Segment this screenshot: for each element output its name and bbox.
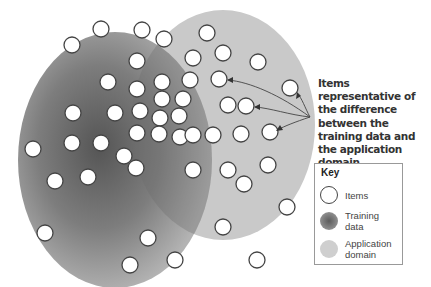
item-circle (233, 126, 249, 142)
item-circle (65, 105, 81, 121)
item-circle (140, 230, 156, 246)
item-circle (116, 148, 132, 164)
item-circle (156, 31, 172, 47)
item-circle (64, 135, 80, 151)
item-circle (80, 169, 96, 185)
item-circle (220, 97, 236, 113)
legend-title: Key (321, 167, 339, 178)
item-circle (93, 21, 109, 37)
item-circle (236, 176, 252, 192)
legend-entry-items: Items (320, 186, 368, 204)
item-circle (185, 127, 201, 143)
item-circle (175, 91, 191, 107)
item-circle (25, 141, 41, 157)
item-circle (93, 135, 109, 151)
item-circle (238, 98, 254, 114)
legend-entry-training: Training data (320, 210, 390, 232)
item-circle (100, 74, 116, 90)
callout-label: Items representative of the difference b… (318, 77, 431, 169)
legend: Key Items Training data Application doma… (314, 163, 403, 265)
item-circle (260, 157, 276, 173)
item-circle (185, 162, 201, 178)
item-circle (37, 225, 53, 241)
item-circle (128, 160, 144, 176)
legend-label-training: Training data (345, 210, 390, 232)
item-circle (282, 80, 298, 96)
item-circle (205, 127, 221, 143)
item-circle (154, 74, 170, 90)
item-circle (132, 103, 148, 119)
item-circle (129, 81, 145, 97)
item-circle (134, 22, 150, 38)
item-circle (220, 162, 236, 178)
item-circle (122, 257, 138, 273)
item-circle (250, 54, 266, 70)
item-circle (199, 25, 215, 41)
item-circle (215, 45, 231, 61)
item-circle (151, 126, 167, 142)
item-circle (249, 252, 265, 268)
item-circle (279, 199, 295, 215)
item-circle (129, 125, 145, 141)
item-circle (215, 219, 231, 235)
legend-label-items: Items (345, 190, 368, 201)
application-domain-swatch-icon (320, 240, 338, 258)
item-circle (211, 71, 227, 87)
item-circle (171, 108, 187, 124)
item-circle (182, 72, 198, 88)
training-data-swatch-icon (320, 212, 338, 230)
item-circle (129, 53, 145, 69)
item-circle (64, 37, 80, 53)
item-circle (154, 91, 170, 107)
item-circle (185, 50, 201, 66)
legend-label-application: Application domain (345, 238, 400, 260)
item-circle (167, 252, 183, 268)
legend-entry-application: Application domain (320, 238, 400, 260)
item-circle-icon (320, 186, 338, 204)
item-circle (47, 173, 63, 189)
item-circle (262, 124, 278, 140)
item-circle (107, 105, 123, 121)
item-circle (152, 110, 168, 126)
